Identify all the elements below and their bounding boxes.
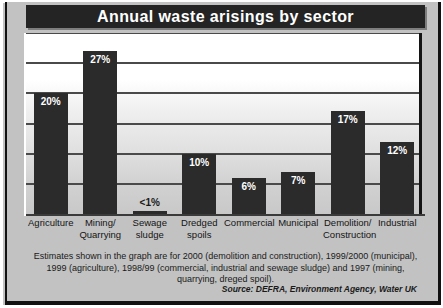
x-axis-tick-label: Sewagesludge: [125, 217, 175, 240]
x-axis-tick-label-line: Commercial: [224, 217, 274, 229]
bar: 10%: [182, 154, 216, 214]
chart-title-bar: Annual waste arisings by sector: [26, 5, 425, 28]
x-axis-tick-label: Demolition/Construction: [323, 217, 373, 240]
x-axis-category-labels: AgricultureMining/QuarryingSewagesludgeD…: [26, 217, 425, 247]
x-axis-tick-label-line: Mining/: [76, 217, 126, 229]
x-axis-tick-label-line: Industrial: [373, 217, 423, 229]
bar: 20%: [34, 93, 68, 214]
bar-value-label: 6%: [232, 181, 266, 192]
bar: 7%: [281, 172, 315, 214]
x-axis-tick-label: Mining/Quarrying: [76, 217, 126, 240]
bar-value-label: 10%: [182, 157, 216, 168]
bar-value-label: 20%: [34, 96, 68, 107]
bar-value-label: 17%: [331, 114, 365, 125]
bar: 6%: [232, 178, 266, 214]
page-title: Annual waste arisings by sector: [97, 8, 354, 26]
source-text: Source: DEFRA, Environment Agency, Water…: [222, 284, 417, 294]
x-axis-tick-label: Industrial: [373, 217, 423, 229]
x-axis-tick-label-line: spoils: [175, 229, 225, 241]
chart-footer: Estimates shown in the graph are for 200…: [26, 249, 425, 301]
x-axis-tick-label-line: Sewage: [125, 217, 175, 229]
bar-value-label: 7%: [281, 175, 315, 186]
x-axis-tick-label: Commercial: [224, 217, 274, 229]
bar: 12%: [380, 142, 414, 214]
x-axis-tick-label: Agriculture: [26, 217, 76, 229]
x-axis-baseline: [26, 214, 425, 216]
x-axis-tick-label: Municipal: [274, 217, 324, 229]
bar-value-label: 12%: [380, 145, 414, 156]
bar: 27%: [83, 51, 117, 214]
x-axis-tick-label: Dredgedspoils: [175, 217, 225, 240]
x-axis-tick-label-line: sludge: [125, 229, 175, 241]
x-axis-tick-label-line: Dredged: [175, 217, 225, 229]
x-axis-tick-label-line: Demolition/: [323, 217, 373, 229]
x-axis-tick-label-line: Construction: [323, 229, 373, 241]
bars-layer: 20%27%<1%10%6%7%17%12%: [26, 33, 422, 214]
x-axis-tick-label-line: Quarrying: [76, 229, 126, 241]
chart-figure: Annual waste arisings by sector 20%27%<1…: [0, 0, 443, 308]
bar: 17%: [331, 111, 365, 214]
x-axis-tick-label-line: Agriculture: [26, 217, 76, 229]
x-axis-tick-label-line: Municipal: [274, 217, 324, 229]
bar-value-label: 27%: [83, 54, 117, 65]
footnote-text: Estimates shown in the graph are for 200…: [26, 249, 425, 286]
bar-value-label: <1%: [133, 197, 167, 208]
